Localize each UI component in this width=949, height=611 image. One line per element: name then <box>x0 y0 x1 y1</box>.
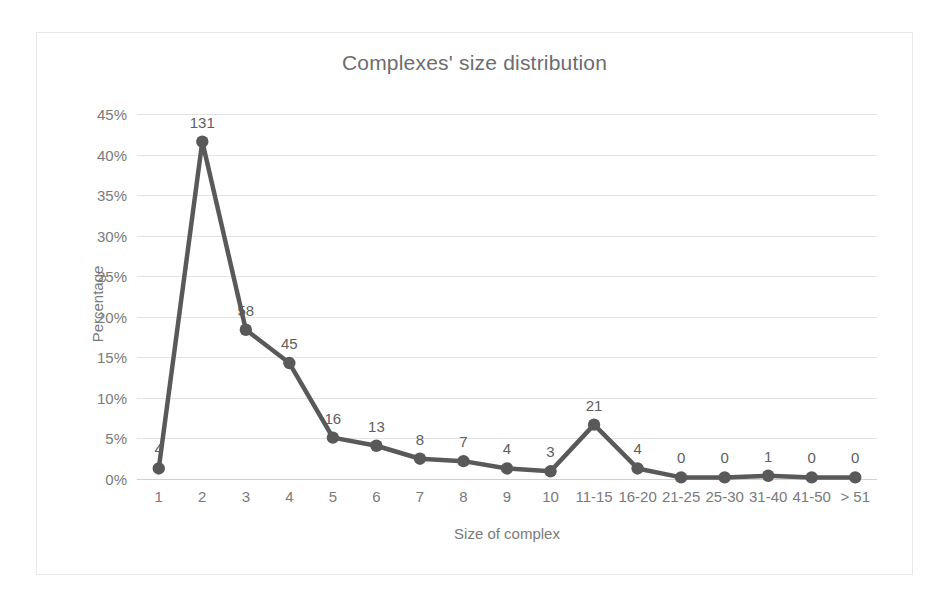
data-point-label: 7 <box>459 433 467 450</box>
y-axis-tick-label: 5% <box>67 430 127 447</box>
data-point-label: 58 <box>237 302 254 319</box>
x-axis-tick-label: 7 <box>416 488 424 505</box>
series-line-chart <box>137 114 877 479</box>
x-axis-tick-label: 16-20 <box>618 488 656 505</box>
data-point-marker <box>370 440 382 452</box>
data-point-label: 0 <box>720 449 728 466</box>
series-line <box>159 142 855 478</box>
data-point-marker <box>196 135 208 147</box>
data-point-label: 21 <box>586 397 603 414</box>
x-axis-tick-label: 31-40 <box>749 488 787 505</box>
y-axis-tick-label: 20% <box>67 308 127 325</box>
x-axis-tick-label: 5 <box>329 488 337 505</box>
data-point-label: 1 <box>764 448 772 465</box>
x-axis-title: Size of complex <box>137 525 877 542</box>
x-axis-tick-label: 6 <box>372 488 380 505</box>
data-point-marker <box>283 357 295 369</box>
x-axis-tick-label: 21-25 <box>662 488 700 505</box>
data-point-marker <box>631 462 643 474</box>
y-axis-tick-label: 15% <box>67 349 127 366</box>
data-point-marker <box>414 453 426 465</box>
chart-title: Complexes' size distribution <box>37 51 912 75</box>
x-axis-tick-label: > 51 <box>840 488 870 505</box>
y-axis-tick-label: 40% <box>67 146 127 163</box>
x-axis-tick-label: 8 <box>459 488 467 505</box>
data-point-label: 45 <box>281 335 298 352</box>
x-axis-tick-label: 11-15 <box>575 488 612 505</box>
y-axis-tick-label: 35% <box>67 187 127 204</box>
data-point-marker <box>240 324 252 336</box>
x-axis-tick-label: 10 <box>542 488 559 505</box>
data-point-label: 4 <box>503 440 511 457</box>
data-point-label: 16 <box>325 410 342 427</box>
data-point-marker <box>849 471 861 483</box>
data-point-label: 8 <box>416 431 424 448</box>
y-axis-tick-label: 45% <box>67 106 127 123</box>
data-point-marker <box>806 471 818 483</box>
data-point-label: 4 <box>633 440 641 457</box>
data-point-marker <box>501 462 513 474</box>
data-point-label: 0 <box>808 449 816 466</box>
x-axis-tick-label: 2 <box>198 488 206 505</box>
data-point-marker <box>327 431 339 443</box>
x-axis-tick-label: 9 <box>503 488 511 505</box>
x-axis-tick-label: 1 <box>155 488 163 505</box>
data-point-label: 131 <box>190 114 215 131</box>
chart-frame: Complexes' size distribution Percentage … <box>36 32 913 575</box>
data-point-marker <box>762 470 774 482</box>
data-point-marker <box>153 462 165 474</box>
y-axis-tick-label: 25% <box>67 268 127 285</box>
x-axis-tick-label: 4 <box>285 488 293 505</box>
data-point-label: 0 <box>677 449 685 466</box>
y-axis-tick-label: 10% <box>67 389 127 406</box>
data-point-marker <box>588 418 600 430</box>
data-point-marker <box>544 465 556 477</box>
data-point-marker <box>675 471 687 483</box>
x-axis-tick-label: 3 <box>242 488 250 505</box>
y-axis-tick-label: 0% <box>67 471 127 488</box>
x-axis-tick-label: 25-30 <box>705 488 743 505</box>
data-point-label: 4 <box>155 440 163 457</box>
data-point-marker <box>457 455 469 467</box>
data-point-label: 3 <box>546 443 554 460</box>
data-point-marker <box>718 471 730 483</box>
x-axis-tick-label: 41-50 <box>793 488 831 505</box>
plot-area: 0%5%10%15%20%25%30%35%40%45% 12345678910… <box>137 114 877 479</box>
data-point-label: 13 <box>368 418 385 435</box>
data-point-label: 0 <box>851 449 859 466</box>
y-axis-tick-label: 30% <box>67 227 127 244</box>
